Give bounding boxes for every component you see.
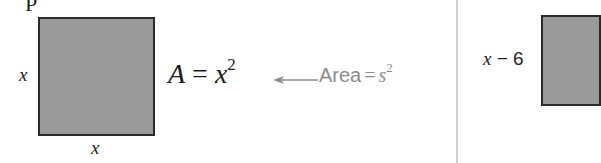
side-length-label-right: x − 6 xyxy=(483,48,524,70)
annotation-exponent: 2 xyxy=(386,60,393,75)
right-label-offset: − 6 xyxy=(491,48,523,69)
side-length-label-bottom: x xyxy=(91,137,99,159)
square-x-by-x xyxy=(38,17,155,136)
equals-sign: = xyxy=(192,58,208,89)
area-variable: A xyxy=(168,58,185,89)
cut-off-heading-fragment: P xyxy=(25,0,37,17)
annotation-equals: = xyxy=(364,64,375,86)
panel-divider xyxy=(456,0,458,163)
area-annotation: Area=s2 xyxy=(319,62,393,87)
area-formula: A = x2 xyxy=(168,58,236,90)
formula-base: x xyxy=(215,58,227,89)
side-length-label-left: x xyxy=(19,64,27,86)
left-arrow-icon xyxy=(273,75,318,85)
square-partial-right xyxy=(541,15,601,106)
annotation-word: Area xyxy=(319,64,361,86)
formula-exponent: 2 xyxy=(227,55,236,74)
